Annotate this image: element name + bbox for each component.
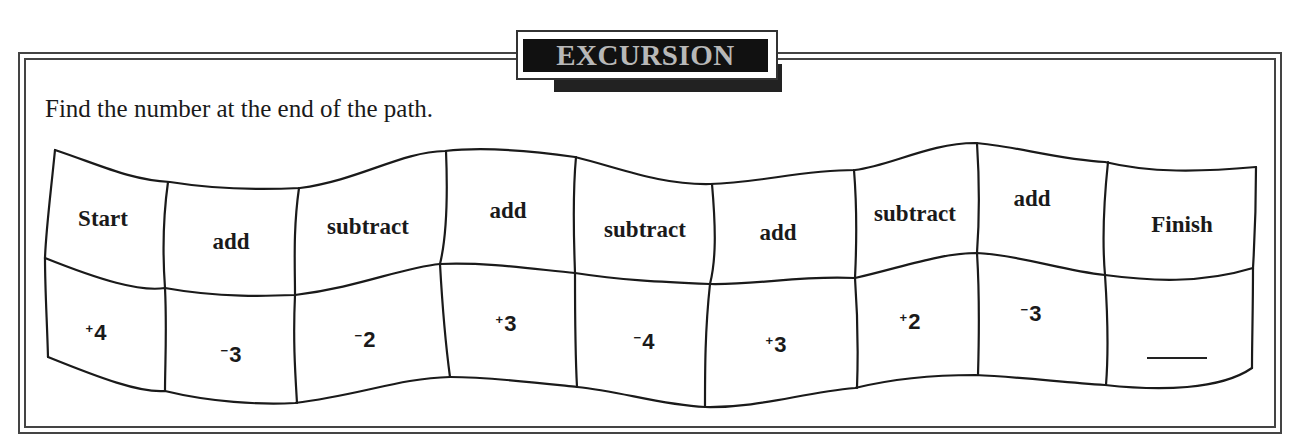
path-value: −3 (1021, 301, 1042, 327)
path-label-add: add (489, 198, 526, 224)
path-value: −2 (355, 327, 376, 353)
path-value: +2 (900, 309, 921, 335)
path-value: −3 (221, 342, 242, 368)
path-label-add: add (212, 229, 249, 255)
banner-box: EXCURSION (516, 30, 778, 80)
path-value: +3 (496, 311, 517, 337)
path-label-subtract: subtract (327, 214, 409, 240)
path-value: +4 (86, 320, 107, 346)
path-label-start: Start (78, 206, 128, 232)
path-value: −4 (634, 329, 655, 355)
path-label-add: add (1013, 186, 1050, 212)
path-label-subtract: subtract (604, 217, 686, 243)
path-label-add: add (759, 220, 796, 246)
banner-title: EXCURSION (523, 39, 768, 72)
path-label-subtract: subtract (874, 201, 956, 227)
path-label-finish: Finish (1151, 212, 1212, 238)
finish-answer-blank[interactable] (1147, 357, 1207, 359)
path-value: +3 (766, 332, 787, 358)
